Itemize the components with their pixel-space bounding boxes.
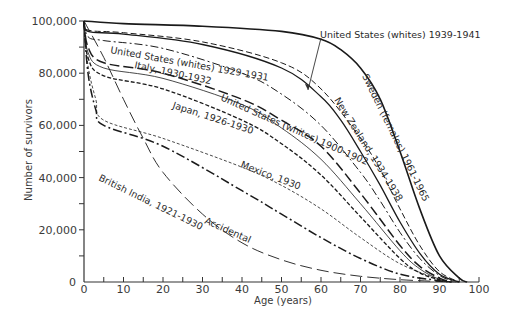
- y-tick-label: 60,000: [39, 119, 78, 132]
- x-tick-label: 90: [433, 283, 447, 296]
- y-axis-title: Number of survivors: [23, 99, 34, 201]
- x-tick-label: 40: [235, 283, 249, 296]
- x-ticks: 0102030405060708090100: [81, 277, 490, 296]
- pointer-arrowhead-icon: [305, 84, 310, 90]
- label-british-india: British India, 1921-1930: [97, 172, 205, 232]
- x-tick-label: 70: [354, 283, 368, 296]
- y-tick-label: 20,000: [39, 224, 78, 237]
- label-accidental: Accidental: [203, 215, 253, 245]
- x-tick-label: 0: [81, 283, 88, 296]
- y-tick-label: 40,000: [39, 172, 78, 185]
- survivorship-chart: 0102030405060708090100 020,00040,00060,0…: [0, 0, 508, 326]
- y-tick-label: 0: [69, 276, 76, 289]
- label-us-1939: United States (whites) 1939-1941: [320, 29, 481, 40]
- label-mexico: Mexico, 1930: [239, 159, 302, 192]
- y-ticks: 020,00040,00060,00080,000100,000: [32, 15, 85, 289]
- y-tick-label: 100,000: [32, 15, 78, 28]
- y-tick-label: 80,000: [39, 67, 78, 80]
- x-tick-label: 60: [314, 283, 328, 296]
- x-tick-label: 80: [393, 283, 407, 296]
- x-tick-label: 30: [196, 283, 210, 296]
- x-axis-title: Age (years): [254, 295, 312, 306]
- x-tick-label: 10: [117, 283, 131, 296]
- x-tick-label: 100: [469, 283, 490, 296]
- x-tick-label: 20: [156, 283, 170, 296]
